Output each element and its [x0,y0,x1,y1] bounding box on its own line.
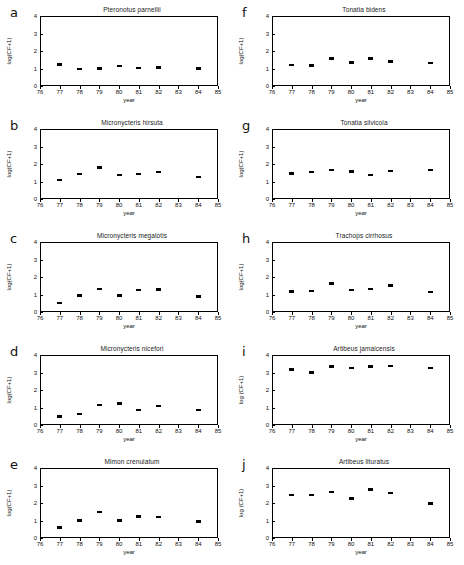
x-tick-label: 81 [363,427,379,435]
data-point [388,492,393,495]
x-tick-mark [312,312,313,315]
x-tick-mark [351,312,352,315]
x-tick-mark [430,86,431,89]
y-tick-mark [40,486,43,487]
x-tick-label: 79 [91,201,107,209]
x-tick-mark [272,199,273,202]
panel-g: gTonatia silvicolalog(CF+1)0123476777879… [232,113,464,226]
x-tick-mark [351,425,352,428]
x-tick-label: 76 [32,314,48,322]
plot-area [40,242,218,312]
y-tick-label: 1 [0,517,40,525]
x-tick-mark [450,425,451,428]
x-tick-mark [40,199,41,202]
x-tick-label: 81 [363,314,379,322]
x-tick-mark [198,425,199,428]
x-tick-mark [331,538,332,541]
x-tick-mark [410,538,411,541]
x-tick-label: 84 [190,540,206,548]
panel-h: hTrachops cirrhosuslog(CF+1)012347677787… [232,226,464,339]
x-tick-mark [80,86,81,89]
y-tick-mark [40,182,43,183]
panel-title: Mimon crenulatum [40,458,224,465]
x-tick-label: 78 [72,201,88,209]
x-tick-label: 78 [72,88,88,96]
x-tick-mark [119,312,120,315]
x-tick-mark [430,538,431,541]
x-tick-label: 78 [304,427,320,435]
panel-b: bMicronycteris hirsutalog(CF+1)012347677… [0,113,232,226]
plot-area [272,242,450,312]
panel-title: Tonatia bidens [272,6,456,13]
y-tick-label: 2 [232,499,272,507]
y-tick-mark [40,164,43,165]
x-tick-label: 84 [422,201,438,209]
data-point [117,519,122,522]
x-tick-mark [159,538,160,541]
data-point [156,405,161,408]
panel-e: eMimon crenulatumlog(CF+1)01234767778798… [0,452,232,565]
x-tick-label: 81 [363,88,379,96]
plot-area [272,16,450,86]
y-tick-mark [40,355,43,356]
x-tick-mark [351,199,352,202]
x-tick-label: 79 [323,201,339,209]
x-tick-label: 79 [323,540,339,548]
data-point [309,171,314,174]
x-axis-label: year [40,323,218,329]
x-tick-label: 79 [323,427,339,435]
panel-title: Micronycteris nicefori [40,345,224,352]
x-tick-mark [371,425,372,428]
x-tick-mark [331,199,332,202]
x-tick-label: 77 [52,201,68,209]
x-tick-label: 84 [422,314,438,322]
data-point [97,288,102,291]
data-point [57,63,62,66]
x-tick-label: 77 [284,427,300,435]
y-tick-label: 4 [0,238,40,246]
x-tick-mark [430,199,431,202]
x-tick-label: 80 [343,540,359,548]
x-tick-mark [430,312,431,315]
y-tick-label: 1 [0,404,40,412]
x-tick-label: 81 [131,201,147,209]
x-tick-label: 80 [111,314,127,322]
y-tick-mark [272,277,275,278]
x-tick-mark [159,312,160,315]
x-tick-label: 78 [304,540,320,548]
data-point [309,290,314,293]
x-tick-mark [60,312,61,315]
x-tick-mark [99,199,100,202]
x-tick-label: 80 [111,427,127,435]
data-point [77,519,82,522]
x-tick-mark [331,312,332,315]
data-point [309,371,314,374]
x-tick-mark [218,312,219,315]
data-point [368,488,373,491]
x-tick-mark [178,199,179,202]
x-tick-label: 80 [343,201,359,209]
data-point [196,520,201,523]
data-point [156,516,161,519]
plot-area [40,129,218,199]
y-tick-label: 3 [0,30,40,38]
x-tick-mark [99,425,100,428]
panel-title: Micronycteris hirsuta [40,119,224,126]
data-point [368,288,373,291]
y-tick-label: 3 [232,369,272,377]
x-tick-label: 82 [383,314,399,322]
panel-title: Trachops cirrhosus [272,232,456,239]
panel-f: fTonatia bidenslog(CF+1)0123476777879808… [232,0,464,113]
y-tick-mark [272,408,275,409]
y-tick-label: 3 [0,482,40,490]
y-tick-mark [40,390,43,391]
y-tick-label: 3 [0,369,40,377]
x-tick-label: 84 [190,201,206,209]
x-tick-mark [60,538,61,541]
data-point [289,172,294,175]
y-tick-mark [40,34,43,35]
y-tick-mark [272,51,275,52]
x-tick-mark [139,425,140,428]
x-tick-label: 82 [151,540,167,548]
y-tick-label: 1 [232,517,272,525]
